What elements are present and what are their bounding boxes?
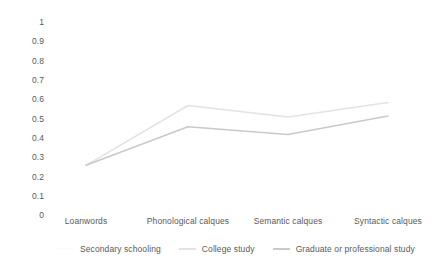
- x-axis-tick-label: Loanwords: [65, 216, 107, 226]
- x-axis: Loanwords Phonological calques Semantic …: [0, 0, 447, 269]
- legend-swatch-icon: [179, 248, 196, 250]
- legend-item[interactable]: College study: [179, 245, 255, 254]
- line-chart: 1 0.9 0.8 0.7 0.6 0.5 0.4 0.3 0.2 0.1 0 …: [0, 0, 447, 269]
- x-axis-tick-label: Phonological calques: [147, 216, 229, 226]
- legend-swatch-icon: [57, 248, 74, 250]
- legend-item[interactable]: Graduate or professional study: [273, 245, 415, 254]
- legend-item[interactable]: Secondary schooling: [57, 245, 161, 254]
- legend-item-label: Secondary schooling: [80, 245, 161, 254]
- legend-item-label: Graduate or professional study: [296, 245, 415, 254]
- chart-legend: Secondary schooling College study Gradua…: [0, 240, 447, 258]
- x-axis-tick-label: Syntactic calques: [354, 216, 422, 226]
- x-axis-tick-label: Semantic calques: [254, 216, 323, 226]
- legend-swatch-icon: [273, 248, 290, 250]
- legend-item-label: College study: [202, 245, 255, 254]
